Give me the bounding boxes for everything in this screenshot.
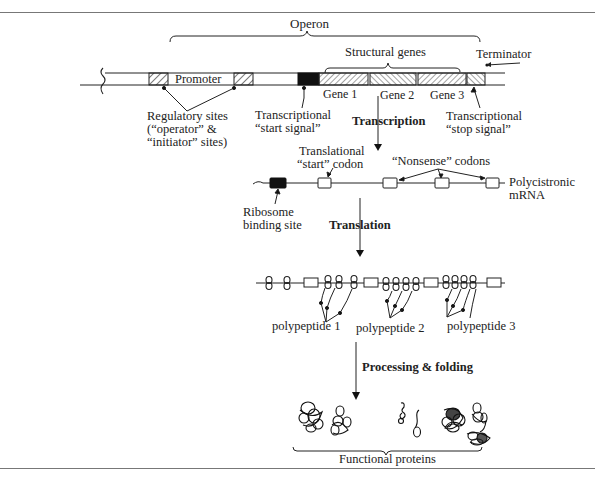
ribosome-binding-pointer: [275, 189, 280, 204]
regulatory-sites-label: Regulatory sites (“operator” & “initiato…: [147, 110, 228, 149]
translation-step-label: Translation: [329, 219, 391, 232]
gene-2-label: Gene 2: [380, 89, 414, 102]
promoter-label: Promoter: [175, 73, 222, 86]
regulatory-site-2: [234, 73, 253, 85]
regulatory-site-1: [149, 73, 168, 85]
gene-1-label: Gene 1: [323, 88, 357, 101]
processing-step-label: Processing & folding: [362, 361, 473, 374]
stop-line-2: “stop signal”: [446, 123, 522, 136]
operon-label: Operon: [290, 17, 329, 30]
trans-start-line-2: “start” codon: [297, 158, 365, 171]
operon-diagram: [0, 0, 595, 485]
transcriptional-start-box: [298, 73, 319, 85]
transcriptional-start-label: Transcriptional “start signal”: [255, 109, 331, 135]
polycistronic-mrna-label: Polycistronic mRNA: [509, 176, 575, 202]
transcriptional-stop-label: Transcriptional “stop signal”: [446, 110, 522, 136]
translational-start-label: Translational “start” codon: [297, 145, 365, 171]
transcription-step-label: Transcription: [352, 115, 425, 128]
ribosome-binding-label: Ribosome binding site: [243, 206, 302, 232]
gene-3-label: Gene 3: [430, 89, 464, 102]
start-codon-box: [318, 178, 331, 188]
start-line-2: “start signal”: [255, 122, 331, 135]
structural-genes-brace: [325, 63, 460, 73]
polypeptide-3-label: polypeptide 3: [447, 320, 515, 333]
regulatory-pointers: [162, 86, 235, 111]
terminator-box: [467, 73, 485, 85]
terminator-pointer: [487, 63, 520, 65]
regulatory-line-3: “initiator” sites): [147, 136, 228, 149]
polysome: [256, 276, 505, 323]
gene-1-box: [319, 73, 368, 85]
mrna-strand: [253, 182, 505, 184]
ribosome-line-2: binding site: [243, 219, 302, 232]
nonsense-codon-3: [486, 178, 499, 188]
folded-proteins: [299, 402, 490, 445]
ribosome-binding-box: [270, 178, 286, 188]
polypeptide-2-label: polypeptide 2: [356, 322, 424, 335]
structural-genes-label: Structural genes: [345, 46, 426, 59]
gene-3-box: [418, 73, 466, 85]
nonsense-codons-label: “Nonsense” codons: [392, 155, 490, 168]
operon-brace: [170, 31, 480, 42]
stop-signal-pointer: [471, 87, 480, 108]
terminator-label: Terminator: [476, 48, 531, 61]
start-signal-pointer: [302, 86, 306, 108]
functional-proteins-label: Functional proteins: [339, 453, 436, 466]
gene-2-box: [370, 73, 416, 85]
polycistronic-line-2: mRNA: [509, 189, 575, 202]
nonsense-codon-1: [383, 178, 397, 188]
polypeptide-1-label: polypeptide 1: [272, 320, 340, 333]
nonsense-codon-2: [435, 178, 449, 188]
